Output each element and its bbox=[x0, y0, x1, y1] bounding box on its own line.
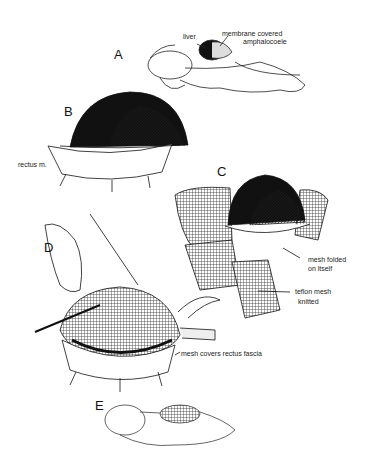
label-amphalocoele: amphalocoele bbox=[243, 38, 287, 46]
panel-letter-a: A bbox=[114, 47, 123, 62]
panel-letter-b: B bbox=[64, 104, 73, 119]
panel-letter-e: E bbox=[95, 398, 104, 413]
panel-e-infant-illustration bbox=[105, 405, 235, 446]
label-mesh-folded: mesh folded bbox=[308, 256, 346, 264]
panel-letter-d: D bbox=[44, 240, 53, 255]
label-on-itself: on itself bbox=[308, 265, 332, 273]
panel-c-mesh-illustration bbox=[175, 175, 328, 318]
illustration-canvas bbox=[0, 0, 369, 474]
label-mesh-covers-rectus-fascia: mesh covers rectus fascia bbox=[181, 350, 262, 358]
label-knitted: knitted bbox=[298, 298, 319, 306]
panel-letter-c: C bbox=[217, 164, 226, 179]
label-rectus-m: rectus m. bbox=[18, 161, 47, 169]
label-liver: liver bbox=[183, 33, 196, 41]
label-teflon-mesh: teflon mesh bbox=[295, 288, 331, 296]
label-membrane-covered: membrane covered bbox=[222, 30, 282, 38]
